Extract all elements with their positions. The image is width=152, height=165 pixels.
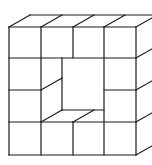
cube-edges <box>9 15 152 155</box>
edge-side-diag-3 <box>136 110 152 122</box>
cube-frame-diagram <box>0 0 152 165</box>
edge-top-diag-0 <box>9 15 30 27</box>
edge-top-diag-3 <box>104 15 125 27</box>
edge-top-diag-2 <box>73 15 94 27</box>
edge-hole-diag-floor <box>73 110 94 122</box>
edge-hole-diag-corner <box>41 110 62 122</box>
edge-hole-diag-left <box>41 78 62 90</box>
edge-top-diag-1 <box>41 15 62 27</box>
edge-side-diag-4 <box>136 143 152 155</box>
edge-side-diag-2 <box>136 78 152 90</box>
edge-side-diag-1 <box>136 46 152 58</box>
edge-top-diag-4 <box>136 15 152 27</box>
